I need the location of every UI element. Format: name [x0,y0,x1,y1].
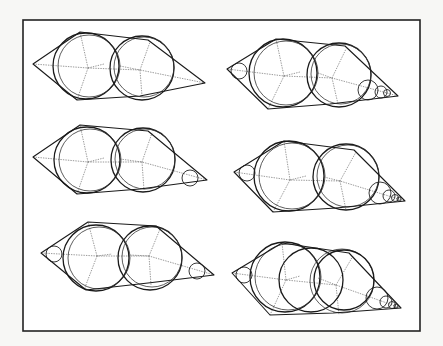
figure-diagram [0,0,443,346]
